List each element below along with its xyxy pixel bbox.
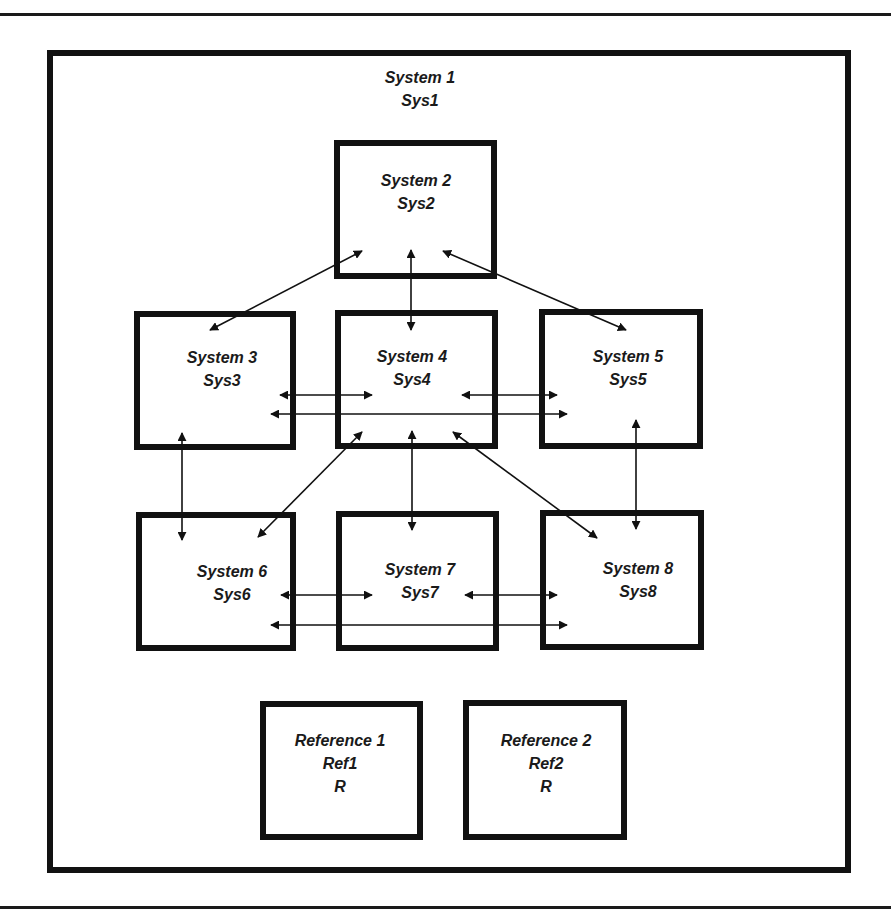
ref1-tag-label: R (334, 778, 346, 795)
sys8-border (543, 513, 701, 647)
system-nodes: System 2Sys2System 3Sys3System 4Sys4Syst… (137, 143, 701, 648)
ref2-short-label: Ref2 (529, 755, 564, 772)
sys7-border (339, 514, 496, 648)
node-sys2[interactable]: System 2Sys2 (337, 143, 494, 276)
ref2-title-label: Reference 2 (501, 732, 592, 749)
sys6-title-label: System 6 (197, 563, 267, 580)
sys3-short-label: Sys3 (203, 372, 240, 389)
sys5-title-label: System 5 (593, 348, 664, 365)
node-sys7[interactable]: System 7Sys7 (339, 514, 496, 648)
sys8-title-label: System 8 (603, 560, 673, 577)
node-sys4[interactable]: System 4Sys4 (338, 313, 495, 446)
sys5-short-label: Sys5 (609, 371, 647, 388)
sys7-short-label: Sys7 (401, 584, 439, 601)
sys4-short-label: Sys4 (393, 371, 430, 388)
sys6-short-label: Sys6 (213, 586, 250, 603)
ref1-short-label: Ref1 (323, 755, 358, 772)
ref1-title-label: Reference 1 (295, 732, 386, 749)
node-sys3[interactable]: System 3Sys3 (137, 314, 293, 447)
node-sys6[interactable]: System 6Sys6 (139, 515, 293, 648)
sys6-border (139, 515, 293, 648)
sys4-title-label: System 4 (377, 348, 447, 365)
container-subtitle: Sys1 (401, 92, 438, 109)
system-diagram: System 1 Sys1 System 2Sys2System 3Sys3Sy… (0, 0, 891, 916)
sys3-title-label: System 3 (187, 349, 257, 366)
sys7-title-label: System 7 (385, 561, 456, 578)
sys2-short-label: Sys2 (397, 195, 434, 212)
node-sys8[interactable]: System 8Sys8 (543, 513, 701, 647)
container-title: System 1 (385, 69, 455, 86)
connector-sys2-sys5 (443, 251, 626, 330)
sys8-short-label: Sys8 (619, 583, 656, 600)
node-ref1[interactable]: Reference 1Ref1R (263, 704, 420, 837)
node-ref2[interactable]: Reference 2Ref2R (466, 703, 624, 837)
sys2-title-label: System 2 (381, 172, 451, 189)
reference-nodes: Reference 1Ref1RReference 2Ref2R (263, 703, 624, 837)
ref2-tag-label: R (540, 778, 552, 795)
node-sys5[interactable]: System 5Sys5 (542, 312, 700, 446)
